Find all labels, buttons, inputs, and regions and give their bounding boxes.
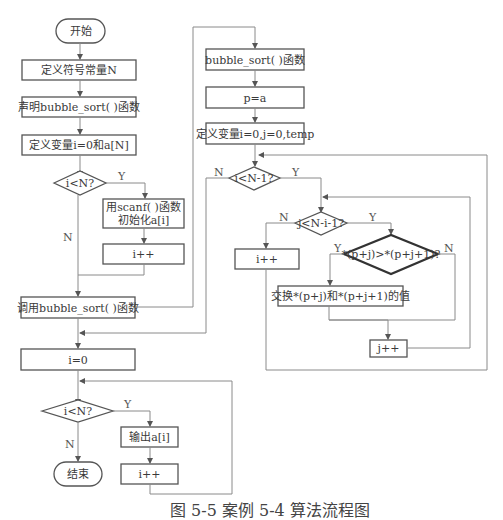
outer-condition-label: i<N-1? [235, 172, 274, 185]
sort-define-vars-label: 定义变量i=0,j=0,temp [196, 127, 315, 141]
input-increment-label: i++ [133, 248, 155, 261]
output-box: 输出a[i] [121, 427, 178, 447]
outer-increment-box: i++ [235, 249, 299, 269]
call-sort-box: 调用bubble_sort( )函数 [17, 297, 139, 318]
connector [106, 183, 145, 198]
start-label: 开始 [70, 24, 92, 38]
outer-condition-diamond: i<N-1? [229, 167, 280, 190]
reset-i-box: i=0 [21, 349, 135, 370]
declare-func-label: 声明bubble_sort( )函数 [18, 100, 140, 114]
define-vars-box: 定义变量i=0和a[N] [22, 135, 136, 155]
sort-define-vars-box: 定义变量i=0,j=0,temp [196, 123, 315, 144]
no-label: N [279, 211, 289, 224]
figure-caption: 图 5-5 案例 5-4 算法流程图 [170, 503, 370, 519]
output-condition-diamond: i<N? [42, 400, 113, 422]
no-label: N [65, 438, 75, 451]
inner-increment-box: j++ [370, 340, 407, 357]
no-label: N [63, 231, 73, 244]
no-label: N [214, 166, 224, 179]
yes-label: Y [117, 170, 126, 183]
inner-condition-label: j<N-i-1? [296, 217, 344, 230]
outer-increment-label: i++ [256, 253, 278, 266]
define-vars-label: 定义变量i=0和a[N] [29, 138, 129, 152]
connector [78, 264, 144, 275]
yes-label: Y [291, 166, 300, 179]
scanf-label-line2: 初始化a[i] [118, 213, 170, 227]
connector [266, 223, 295, 248]
declare-func-box: 声明bubble_sort( )函数 [18, 97, 140, 117]
scanf-box: 用scanf( )函数 初始化a[i] [103, 199, 184, 228]
input-condition-label: i<N? [66, 177, 94, 190]
define-const-label: 定义符号常量N [41, 63, 117, 77]
connector [347, 223, 391, 234]
connector [280, 178, 321, 212]
output-increment-box: i++ [121, 464, 178, 484]
start-terminal: 开始 [56, 19, 105, 43]
swap-box: 交换*(p+j)和*(p+j+1)的值 [271, 286, 410, 306]
sort-title-box: bubble_sort( )函数 [205, 49, 305, 70]
output-label: 输出a[i] [129, 430, 170, 444]
reset-i-label: i=0 [68, 354, 88, 367]
connector [206, 178, 229, 205]
connector [113, 411, 150, 426]
yes-label: Y [368, 211, 377, 224]
swap-label: 交换*(p+j)和*(p+j+1)的值 [271, 289, 410, 303]
input-condition-diamond: i<N? [54, 171, 106, 195]
call-sort-label: 调用bubble_sort( )函数 [17, 302, 139, 315]
no-label: N [444, 242, 454, 255]
connector [329, 306, 388, 339]
output-condition-label: i<N? [64, 405, 92, 418]
sort-title-label: bubble_sort( )函数 [205, 54, 305, 67]
scanf-label-line1: 用scanf( )函数 [106, 201, 181, 214]
yes-label: Y [333, 242, 342, 255]
inner-condition-diamond: j<N-i-1? [295, 212, 347, 235]
compare-condition-diamond: *(p+j)>*(p+j+1)? [342, 235, 441, 274]
define-const-box: 定义符号常量N [22, 60, 136, 80]
assign-p-box: p=a [206, 87, 304, 108]
compare-condition-label: *(p+j)>*(p+j+1)? [342, 248, 441, 261]
end-terminal: 结束 [54, 462, 102, 486]
end-label: 结束 [67, 468, 89, 481]
assign-p-label: p=a [244, 92, 267, 105]
output-increment-label: i++ [139, 468, 161, 481]
input-increment-box: i++ [103, 244, 184, 264]
inner-increment-label: j++ [376, 342, 400, 355]
yes-label: Y [123, 398, 132, 411]
